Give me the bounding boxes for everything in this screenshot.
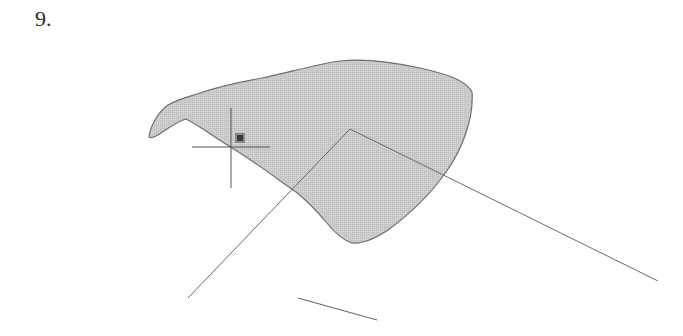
short-segment-line[interactable] <box>298 298 377 320</box>
grip-handle-icon[interactable] <box>235 133 245 143</box>
drawing-canvas[interactable] <box>0 0 683 336</box>
hatched-region[interactable] <box>149 60 472 243</box>
